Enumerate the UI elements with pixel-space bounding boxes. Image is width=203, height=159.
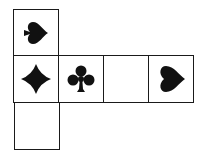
net-face-top bbox=[13, 9, 59, 56]
net-face-middle-3 bbox=[103, 55, 149, 103]
net-face-middle-4 bbox=[148, 55, 194, 103]
net-face-middle-2 bbox=[58, 55, 104, 103]
net-face-middle-1 bbox=[13, 55, 59, 103]
heart-icon bbox=[154, 62, 188, 96]
net-face-bottom bbox=[14, 102, 60, 150]
diamond-icon bbox=[19, 62, 53, 96]
spade-icon bbox=[20, 17, 52, 49]
club-icon bbox=[64, 62, 98, 96]
